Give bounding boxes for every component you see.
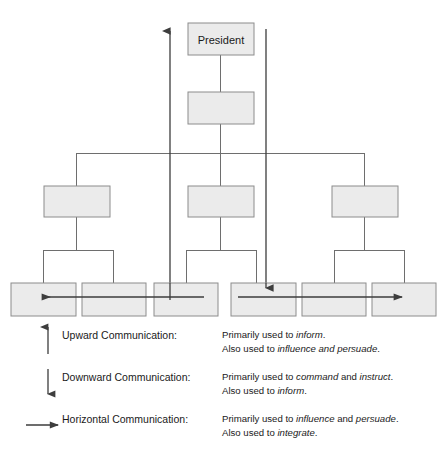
legend-desc-2-l2-em1: integrate bbox=[277, 427, 314, 438]
org-node-level4-f[interactable] bbox=[372, 283, 436, 316]
org-node-level4-b[interactable] bbox=[82, 283, 146, 316]
legend-desc-1-l1-post: . bbox=[391, 371, 394, 382]
legend-desc-1-l1-mid: and bbox=[338, 371, 359, 382]
legend-desc-1-l1-em2: instruct bbox=[360, 371, 391, 382]
org-node-level3-a[interactable] bbox=[44, 186, 110, 217]
legend-desc-2-l1-post: . bbox=[396, 413, 399, 424]
legend-desc-0-l1-pre: Primarily used to bbox=[222, 329, 296, 340]
legend-desc-1-l2-post: . bbox=[304, 385, 307, 396]
legend-description-upward: Primarily used to inform. Also used to i… bbox=[222, 328, 437, 355]
legend-desc-2-l1-em2: persuade bbox=[356, 413, 396, 424]
legend-desc-2-l2-pre: Also used to bbox=[222, 427, 277, 438]
org-node-level3-c[interactable] bbox=[332, 186, 398, 217]
legend-label-upward: Upward Communication: bbox=[62, 329, 222, 342]
org-node-level2-a[interactable] bbox=[188, 92, 254, 124]
legend-description-horizontal: Primarily used to influence and persuade… bbox=[222, 412, 437, 439]
legend-row-upward: Upward Communication: Primarily used to … bbox=[0, 322, 437, 362]
org-node-president-label: President bbox=[198, 34, 244, 46]
legend-desc-0-l2-em1: influence and persuade bbox=[277, 343, 377, 354]
legend-description-downward: Primarily used to command and instruct. … bbox=[222, 370, 437, 397]
org-chart: President bbox=[0, 0, 437, 320]
org-node-level4-e[interactable] bbox=[302, 283, 366, 316]
legend-desc-2-l1-pre: Primarily used to bbox=[222, 413, 296, 424]
org-node-level4-c[interactable] bbox=[154, 283, 218, 316]
legend-desc-1-l1-pre: Primarily used to bbox=[222, 371, 296, 382]
communication-flow-arrows bbox=[170, 29, 266, 300]
legend-label-horizontal: Horizontal Communication: bbox=[62, 413, 222, 426]
legend-desc-1-l2-em1: inform bbox=[277, 385, 304, 396]
legend-row-downward: Downward Communication: Primarily used t… bbox=[0, 364, 437, 404]
legend-desc-0-l1-em1: inform bbox=[296, 329, 323, 340]
org-node-level4-a[interactable] bbox=[11, 283, 76, 316]
communication-legend: Upward Communication: Primarily used to … bbox=[0, 320, 437, 451]
legend-desc-1-l2-pre: Also used to bbox=[222, 385, 277, 396]
legend-desc-2-l2-post: . bbox=[315, 427, 318, 438]
org-node-level3-b[interactable] bbox=[188, 186, 254, 217]
legend-desc-1-l1-em1: command bbox=[296, 371, 338, 382]
legend-desc-2-l1-mid: and bbox=[335, 413, 356, 424]
legend-desc-0-l1-post: . bbox=[323, 329, 326, 340]
org-chart-svg: President bbox=[0, 0, 437, 320]
org-node-level4-d[interactable] bbox=[231, 283, 296, 316]
legend-label-downward: Downward Communication: bbox=[62, 371, 222, 384]
legend-desc-0-l2-pre: Also used to bbox=[222, 343, 277, 354]
legend-desc-0-l2-post: . bbox=[377, 343, 380, 354]
org-boxes bbox=[11, 23, 436, 316]
legend-desc-2-l1-em1: influence bbox=[296, 413, 334, 424]
connector-lines bbox=[43, 55, 404, 283]
legend-row-horizontal: Horizontal Communication: Primarily used… bbox=[0, 406, 437, 446]
